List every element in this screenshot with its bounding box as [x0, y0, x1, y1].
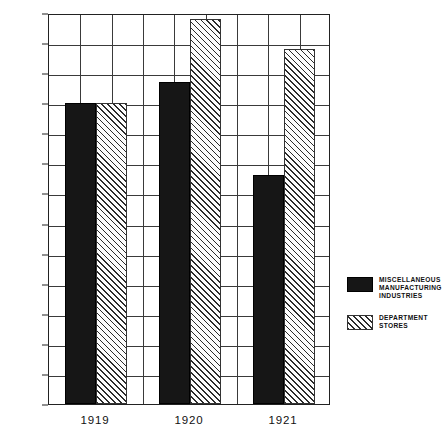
legend-item-miscellaneous-manufacturing-industries: MISCELLANEOUS MANUFACTURING INDUSTRIES	[347, 276, 447, 301]
legend-label: MISCELLANEOUS MANUFACTURING INDUSTRIES	[379, 276, 442, 301]
bar	[190, 19, 221, 404]
y-tick-mark	[42, 134, 48, 135]
y-tick-mark	[42, 104, 48, 105]
bar	[253, 175, 284, 404]
bar	[159, 82, 190, 404]
y-tick-mark	[42, 74, 48, 75]
legend-label-line-2: STORES	[379, 322, 428, 330]
legend-item-department-stores: DEPARTMENT STORES	[347, 314, 447, 330]
y-tick-mark	[42, 254, 48, 255]
y-tick-mark	[42, 14, 48, 15]
y-tick-mark	[42, 164, 48, 165]
y-tick-mark	[42, 194, 48, 195]
bars-layer	[49, 15, 329, 404]
legend-label-line-3: INDUSTRIES	[379, 292, 442, 300]
x-tick-label: 1920	[175, 414, 204, 426]
legend-label-line-1: DEPARTMENT	[379, 314, 428, 322]
y-tick-mark	[42, 44, 48, 45]
y-tick-mark	[42, 405, 48, 406]
plot-area	[48, 14, 330, 405]
bar-chart: 1919 AVERAGE 100 01020304050607080901001…	[0, 0, 448, 444]
y-tick-mark	[42, 314, 48, 315]
legend-swatch-solid-icon	[347, 277, 373, 292]
y-tick-mark	[42, 224, 48, 225]
y-tick-mark	[42, 284, 48, 285]
legend-label: DEPARTMENT STORES	[379, 314, 428, 330]
y-tick-mark	[42, 344, 48, 345]
legend-label-line-2: MANUFACTURING	[379, 284, 442, 292]
legend: MISCELLANEOUS MANUFACTURING INDUSTRIES D…	[347, 276, 447, 343]
x-tick-label: 1921	[269, 414, 298, 426]
x-tick-label: 1919	[81, 414, 110, 426]
bar	[65, 103, 96, 404]
bar	[96, 103, 127, 404]
legend-swatch-hatch-icon	[347, 315, 373, 330]
y-tick-mark	[42, 374, 48, 375]
bar	[284, 49, 315, 404]
legend-label-line-1: MISCELLANEOUS	[379, 276, 442, 284]
